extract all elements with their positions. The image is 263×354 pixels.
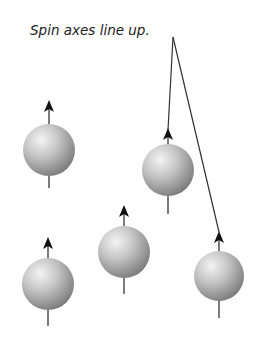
- diagram-canvas: [0, 0, 263, 354]
- leader-lines: [168, 37, 219, 232]
- spin-particle: [194, 231, 244, 318]
- spin-particle: [98, 205, 150, 294]
- spins-group: [22, 100, 244, 326]
- leader-line: [173, 37, 219, 232]
- sphere: [98, 226, 150, 278]
- leader-line: [168, 37, 173, 130]
- sphere: [22, 258, 74, 310]
- sphere: [23, 124, 75, 176]
- sphere: [194, 251, 244, 301]
- spin-diagram: Spin axes line up.: [0, 0, 263, 354]
- caption: Spin axes line up.: [30, 22, 150, 38]
- sphere: [142, 144, 194, 196]
- spin-particle: [22, 237, 74, 326]
- spin-particle: [23, 100, 75, 188]
- spin-particle: [142, 128, 194, 214]
